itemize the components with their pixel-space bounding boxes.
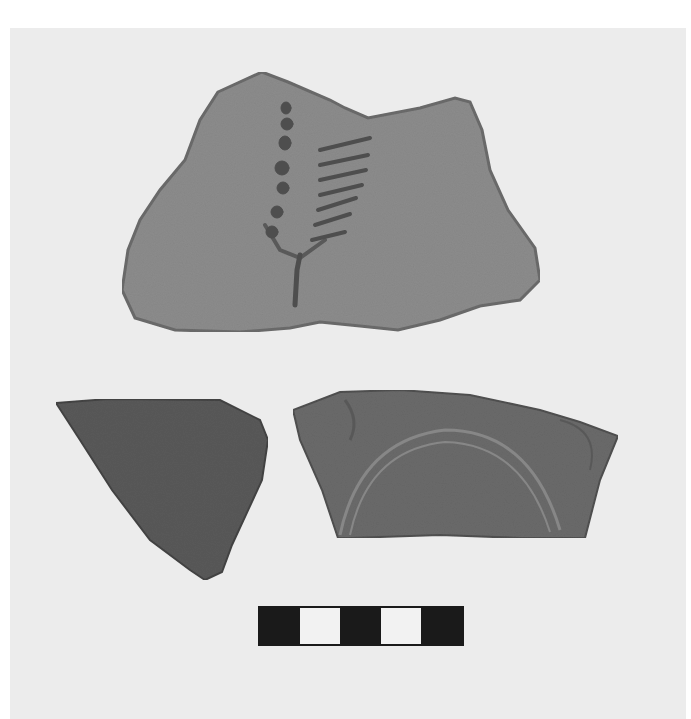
pottery-photo (0, 0, 691, 719)
sherd-bottom-right (293, 390, 618, 538)
scale-bar (258, 606, 464, 646)
sherd-bottom-left (56, 399, 268, 580)
sherd-top (122, 72, 540, 332)
